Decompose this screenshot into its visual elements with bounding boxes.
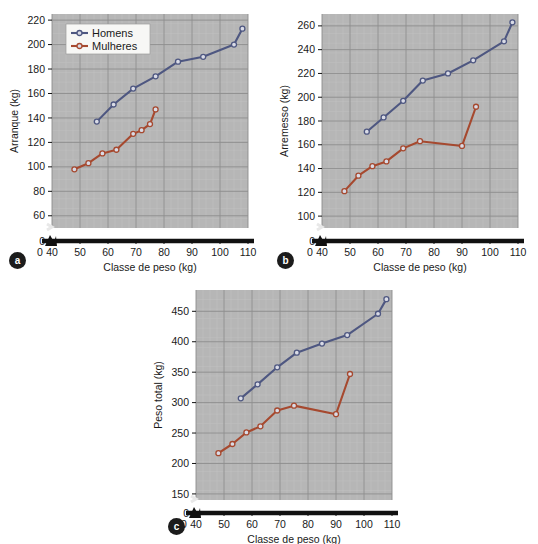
svg-text:200: 200 xyxy=(171,457,189,469)
svg-text:0: 0 xyxy=(307,246,313,258)
svg-text:350: 350 xyxy=(171,366,189,378)
chart-c-canvas: 1502002503003504004500040506070809010011… xyxy=(134,278,424,544)
svg-text:70: 70 xyxy=(130,246,142,258)
svg-text:Arremesso (kg): Arremesso (kg) xyxy=(278,85,290,157)
svg-text:40: 40 xyxy=(316,246,328,258)
svg-text:Classe de peso (kg): Classe de peso (kg) xyxy=(103,261,196,273)
panel-badge-a: a xyxy=(9,252,26,269)
svg-text:100: 100 xyxy=(297,210,315,222)
svg-text:70: 70 xyxy=(400,246,412,258)
svg-text:Arranque (kg): Arranque (kg) xyxy=(8,89,20,153)
svg-text:40: 40 xyxy=(190,518,202,530)
svg-text:90: 90 xyxy=(330,518,342,530)
svg-text:180: 180 xyxy=(297,115,315,127)
svg-text:60: 60 xyxy=(102,246,114,258)
panel-badge-b: b xyxy=(277,252,294,269)
svg-text:120: 120 xyxy=(297,186,315,198)
svg-text:200: 200 xyxy=(27,38,45,50)
svg-text:60: 60 xyxy=(246,518,258,530)
svg-text:50: 50 xyxy=(218,518,230,530)
svg-text:Homens: Homens xyxy=(92,27,133,39)
svg-text:0: 0 xyxy=(37,246,43,258)
svg-text:Peso total (kg): Peso total (kg) xyxy=(152,361,164,429)
svg-text:100: 100 xyxy=(211,246,229,258)
svg-text:110: 110 xyxy=(240,246,257,258)
chart-panel-c: 1502002503003504004500040506070809010011… xyxy=(134,278,424,544)
chart-b-canvas: 1001201401601802002202402600040506070809… xyxy=(268,0,538,278)
chart-panel-a: 6080100120140160180200220004050607080901… xyxy=(0,0,268,278)
svg-text:450: 450 xyxy=(171,305,189,317)
svg-text:110: 110 xyxy=(384,518,401,530)
svg-text:70: 70 xyxy=(274,518,286,530)
svg-text:40: 40 xyxy=(46,246,58,258)
svg-text:160: 160 xyxy=(297,138,315,150)
svg-text:90: 90 xyxy=(186,246,198,258)
svg-text:80: 80 xyxy=(428,246,440,258)
svg-text:180: 180 xyxy=(27,63,45,75)
svg-text:60: 60 xyxy=(372,246,384,258)
svg-text:90: 90 xyxy=(456,246,468,258)
svg-text:Mulheres: Mulheres xyxy=(92,40,138,52)
svg-text:80: 80 xyxy=(302,518,314,530)
svg-text:100: 100 xyxy=(481,246,499,258)
svg-text:100: 100 xyxy=(355,518,373,530)
panel-badge-c: c xyxy=(168,518,185,535)
svg-text:Classe de peso (kg): Classe de peso (kg) xyxy=(373,261,466,273)
svg-text:160: 160 xyxy=(27,87,45,99)
svg-text:80: 80 xyxy=(158,246,170,258)
chart-panel-b: 1001201401601802002202402600040506070809… xyxy=(268,0,538,278)
svg-text:260: 260 xyxy=(297,19,315,31)
svg-text:220: 220 xyxy=(27,14,45,26)
svg-text:140: 140 xyxy=(27,112,45,124)
svg-text:400: 400 xyxy=(171,335,189,347)
svg-text:110: 110 xyxy=(510,246,527,258)
svg-text:220: 220 xyxy=(297,67,315,79)
svg-text:240: 240 xyxy=(297,43,315,55)
svg-text:50: 50 xyxy=(74,246,86,258)
chart-a-canvas: 6080100120140160180200220004050607080901… xyxy=(0,0,268,278)
svg-text:100: 100 xyxy=(27,160,45,172)
svg-text:150: 150 xyxy=(171,488,189,500)
svg-text:140: 140 xyxy=(297,162,315,174)
svg-text:Classe de peso (kg): Classe de peso (kg) xyxy=(247,533,340,544)
svg-text:60: 60 xyxy=(33,209,45,221)
svg-text:80: 80 xyxy=(33,185,45,197)
svg-text:50: 50 xyxy=(344,246,356,258)
svg-text:250: 250 xyxy=(171,427,189,439)
svg-text:200: 200 xyxy=(297,91,315,103)
svg-text:300: 300 xyxy=(171,396,189,408)
svg-text:120: 120 xyxy=(27,136,45,148)
